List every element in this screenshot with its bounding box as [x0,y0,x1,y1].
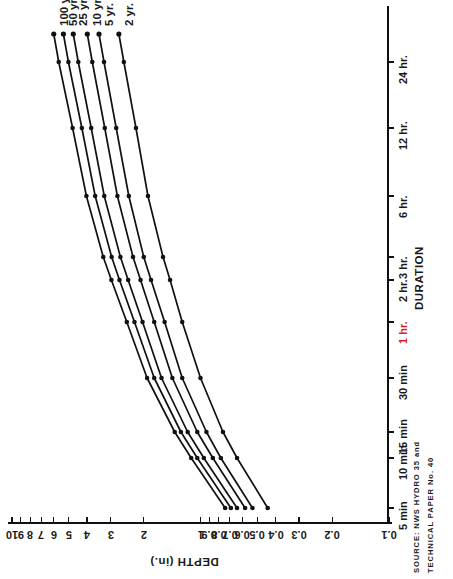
data-point [202,456,207,461]
data-point [76,60,81,65]
leader-line [119,34,124,62]
data-point [170,376,175,381]
data-point [141,255,146,260]
depth-tick-label: 5 [64,529,74,540]
source-note: SOURCE: NWS HYDRO 35 and TECHNICAL PAPER… [410,441,439,573]
duration-tick-label: 15 min [398,419,409,454]
data-point [140,320,145,325]
data-point [114,126,119,131]
data-point [90,60,95,65]
duration-tick-label: 6 hr. [398,195,409,218]
data-point [134,126,139,131]
data-point [152,376,157,381]
data-point [89,126,94,131]
depth-tick-label: 3 [106,529,116,540]
data-point [204,430,209,435]
depth-tick-label: 2 [139,529,149,540]
depth-tick-label: 0.1 [378,529,400,540]
depth-tick-label: 4 [82,529,92,540]
data-point [185,430,190,435]
depth-tick-label: 0.3 [288,529,310,540]
data-point [189,456,194,461]
data-point [219,456,224,461]
leader-line [63,34,68,62]
duration-axis-title: DURATION [413,246,425,310]
curve-2-yr- [124,62,268,508]
curve-end-point [85,31,90,36]
duration-tick-label: 24 hr. [398,55,409,84]
data-point [102,60,107,65]
curve-label-5-yr-: 5 yr. [104,3,116,26]
data-point [84,194,89,199]
data-point [102,126,107,131]
duration-tick-label: 1 hr. [398,321,409,344]
leader-line [99,34,104,62]
duration-tick-label: 2 hr. [398,279,409,302]
data-point [109,278,114,283]
data-point [132,320,137,325]
data-point [117,278,122,283]
data-point [149,278,154,283]
data-point [80,126,85,131]
data-point [66,60,71,65]
data-point [180,376,185,381]
depth-tick-label: 6 [49,529,59,540]
data-point [180,320,185,325]
curve-end-point [116,31,121,36]
data-point [118,255,123,260]
data-point [168,278,173,283]
data-point [115,194,120,199]
data-point [161,255,166,260]
data-point [152,320,157,325]
curve-end-point [96,31,101,36]
depth-tick-label: 1 [196,529,206,540]
duration-tick-label: 3 hr. [398,256,409,279]
curve-paths [54,34,268,508]
data-point [70,126,75,131]
chart-canvas: 0.10.20.30.40.50.60.70.80.912345678910 D… [0,0,453,579]
data-point [179,430,184,435]
data-point [56,60,61,65]
data-point [159,376,164,381]
data-point [122,60,127,65]
data-point [145,376,150,381]
data-point [229,506,234,511]
depth-tick-label: 0.2 [321,529,343,540]
axis-ticks [12,62,394,523]
curve-end-point [71,31,76,36]
depth-tick-label: 8 [25,529,35,540]
depth-tick-label: 7 [36,529,46,540]
curve-end-point [61,31,66,36]
leader-line [73,34,78,62]
data-point [146,194,151,199]
data-point [126,278,131,283]
curve-25-yr- [78,62,237,508]
data-point [198,376,203,381]
depth-tick-label: 10 [4,529,20,540]
duration-tick-label: 5 min [398,501,409,530]
duration-tick-label: 30 min [398,365,409,400]
data-point [235,456,240,461]
data-point [211,456,216,461]
data-point-markers [51,31,270,510]
data-point [138,278,143,283]
duration-tick-label: 12 hr. [398,121,409,150]
source-line-2: TECHNICAL PAPER No. 40 [424,441,438,573]
data-point [195,430,200,435]
curve-5-yr- [104,62,252,508]
data-point [195,456,200,461]
data-point [109,255,114,260]
data-point [250,506,255,511]
data-point [243,506,248,511]
data-point [131,255,136,260]
depth-axis-title: DEPTH (in.) [150,556,219,568]
leader-line [54,34,59,62]
data-point [172,430,177,435]
data-point [93,194,98,199]
curve-label-25-yr-: 25 yr. [78,0,90,26]
idf-curves-plot [0,0,453,579]
data-point [265,506,270,511]
curve-end-point [51,31,56,36]
data-point [235,506,240,511]
curve-label-2-yr-: 2 yr. [124,3,136,26]
